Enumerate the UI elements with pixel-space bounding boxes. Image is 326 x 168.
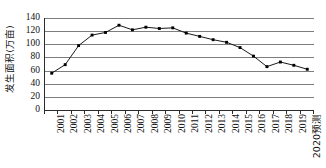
series-line xyxy=(45,18,314,110)
x-axis-tick-label: 2020预测 xyxy=(311,114,322,168)
y-axis-tick-label: 120 xyxy=(26,26,40,36)
data-point-marker xyxy=(292,64,295,67)
x-axis-tick-labels: 2001200220032004200520062007200820092010… xyxy=(44,114,314,168)
line-chart-figure: 发生面积(万亩) 020406080100120140 200120022003… xyxy=(0,0,326,168)
y-axis-tick-label: 40 xyxy=(31,79,41,89)
x-axis-tick-label: 2011 xyxy=(190,114,201,168)
x-axis-tick-label: 2007 xyxy=(136,114,147,168)
data-point-marker xyxy=(50,72,53,75)
y-axis-tick-label: 80 xyxy=(31,53,41,63)
data-point-marker xyxy=(64,63,67,66)
data-point-marker xyxy=(239,46,242,49)
x-axis-tick-label: 2002 xyxy=(69,114,80,168)
series-polyline xyxy=(52,25,308,73)
data-point-marker xyxy=(225,41,228,44)
x-axis-tick-label: 2006 xyxy=(123,114,134,168)
y-axis-title-label: 发生面积(万亩) xyxy=(2,25,16,92)
y-axis-tick-label: 0 xyxy=(35,105,40,115)
x-axis-tick-label: 2005 xyxy=(110,114,121,168)
x-axis-tick-label: 2014 xyxy=(231,114,242,168)
data-point-marker xyxy=(171,26,174,29)
data-point-marker xyxy=(279,61,282,64)
x-axis-tick-label: 2019 xyxy=(298,114,309,168)
x-axis-tick-label: 2004 xyxy=(96,114,107,168)
data-point-marker xyxy=(131,28,134,31)
x-axis-tick-label: 2016 xyxy=(257,114,268,168)
x-axis-tick-label: 2013 xyxy=(217,114,228,168)
x-axis-tick-label: 2012 xyxy=(204,114,215,168)
data-point-marker xyxy=(185,32,188,35)
y-axis-tick-labels: 020406080100120140 xyxy=(16,0,42,118)
y-axis-tick-label: 20 xyxy=(31,92,41,102)
data-point-marker xyxy=(91,34,94,37)
x-axis-tick-label: 2001 xyxy=(56,114,67,168)
data-point-marker xyxy=(77,44,80,47)
data-point-marker xyxy=(306,68,309,71)
data-point-marker xyxy=(198,35,201,38)
x-axis-tick-label: 2015 xyxy=(244,114,255,168)
x-axis-tick-label: 2017 xyxy=(271,114,282,168)
data-point-marker xyxy=(265,65,268,68)
y-axis-tick-label: 140 xyxy=(26,13,40,23)
x-axis-tick-label: 2018 xyxy=(284,114,295,168)
x-axis-tick-label: 2003 xyxy=(83,114,94,168)
data-point-marker xyxy=(252,55,255,58)
data-point-marker xyxy=(118,24,121,27)
data-point-marker xyxy=(158,27,161,30)
data-point-marker xyxy=(144,26,147,29)
x-axis-tick-label: 2010 xyxy=(177,114,188,168)
data-point-marker xyxy=(212,38,215,41)
data-point-marker xyxy=(104,31,107,34)
y-axis-tick-label: 60 xyxy=(31,66,41,76)
plot-area xyxy=(44,18,314,111)
y-axis-tick-label: 100 xyxy=(26,40,40,50)
x-axis-tick-label: 2008 xyxy=(150,114,161,168)
x-axis-tick-label: 2009 xyxy=(163,114,174,168)
